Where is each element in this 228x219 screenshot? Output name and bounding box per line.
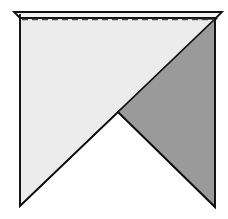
folded-pennant-diagram: [0, 0, 228, 219]
top-folded-band: [14, 12, 222, 18]
diagram-svg: [0, 0, 228, 219]
